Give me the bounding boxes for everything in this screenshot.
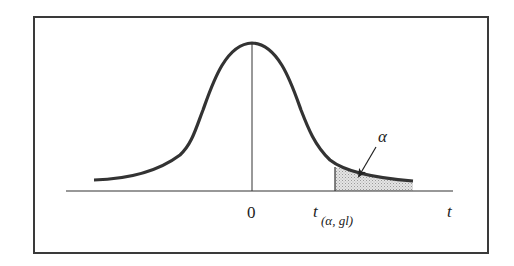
alpha-arrow [359, 147, 376, 176]
figure-frame [34, 17, 488, 253]
critical-value-subscript: (α, gl) [321, 213, 353, 228]
x-axis-variable-label: t [447, 202, 453, 221]
zero-tick-label: 0 [247, 203, 256, 222]
t-distribution-diagram: α 0 t (α, gl) t [0, 0, 514, 266]
t-density-curve [94, 43, 413, 181]
alpha-label: α [378, 127, 388, 146]
critical-value-label: t [313, 202, 319, 221]
